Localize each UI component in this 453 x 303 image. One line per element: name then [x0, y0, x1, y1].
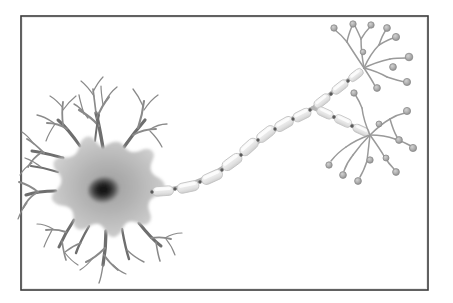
synaptic-bouton: [403, 78, 410, 85]
synaptic-bouton: [396, 137, 403, 144]
neuron-diagram-canvas: [0, 0, 453, 303]
synaptic-bouton: [409, 144, 416, 151]
node-of-ranvier: [308, 108, 311, 111]
synaptic-bouton: [326, 162, 332, 168]
synaptic-bouton: [355, 178, 362, 185]
synaptic-bouton: [392, 33, 399, 40]
synaptic-bouton: [367, 157, 373, 163]
synaptic-bouton: [350, 21, 356, 27]
synaptic-bouton: [331, 25, 337, 31]
synaptic-bouton: [340, 172, 347, 179]
synaptic-bouton: [393, 169, 400, 176]
node-of-ranvier: [150, 190, 153, 193]
synaptic-bouton: [384, 25, 391, 32]
node-of-ranvier: [220, 168, 223, 171]
node-of-ranvier: [256, 138, 259, 141]
node-of-ranvier: [273, 127, 276, 130]
node-of-ranvier: [350, 124, 353, 127]
synaptic-bouton: [390, 64, 397, 71]
synaptic-bouton: [405, 53, 413, 61]
node-of-ranvier: [332, 115, 335, 118]
node-of-ranvier: [346, 79, 349, 82]
synaptic-bouton: [374, 85, 381, 92]
node-of-ranvier: [198, 180, 201, 183]
node-of-ranvier: [329, 92, 332, 95]
synaptic-bouton: [383, 155, 389, 161]
synaptic-bouton: [403, 107, 410, 114]
node-of-ranvier: [291, 117, 294, 120]
synaptic-bouton: [360, 49, 366, 55]
node-of-ranvier: [173, 187, 176, 190]
neuron-illustration-figure: [0, 0, 453, 303]
node-of-ranvier: [239, 153, 242, 156]
myelin-segment: [152, 186, 174, 197]
dendrite-branch: [62, 102, 63, 125]
synaptic-bouton: [376, 121, 382, 127]
synaptic-bouton: [368, 22, 374, 28]
synaptic-bouton: [351, 90, 357, 96]
